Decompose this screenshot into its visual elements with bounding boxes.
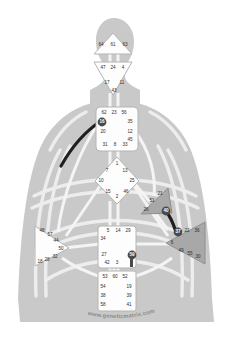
gate-20[interactable]: 20 xyxy=(100,129,106,134)
gate-35[interactable]: 35 xyxy=(127,119,133,124)
gate-6[interactable]: 6 xyxy=(171,240,174,245)
gate-27[interactable]: 27 xyxy=(101,252,107,257)
gate-11[interactable]: 11 xyxy=(120,80,125,85)
gate-21[interactable]: 21 xyxy=(157,191,163,196)
gate-60[interactable]: 60 xyxy=(112,274,118,279)
gate-53[interactable]: 53 xyxy=(102,274,108,279)
gate-58[interactable]: 58 xyxy=(100,302,106,307)
gate-51[interactable]: 51 xyxy=(149,198,155,203)
gate-44[interactable]: 44 xyxy=(53,238,59,243)
gate-64[interactable]: 64 xyxy=(98,42,104,47)
gate-48[interactable]: 48 xyxy=(39,228,45,233)
gate-29[interactable]: 29 xyxy=(125,228,131,233)
gate-12[interactable]: 12 xyxy=(127,129,133,134)
gate-63[interactable]: 63 xyxy=(122,42,128,47)
gate-47[interactable]: 47 xyxy=(100,65,106,70)
gate-17[interactable]: 17 xyxy=(104,80,110,85)
gate-1[interactable]: 1 xyxy=(116,161,119,166)
gate-46[interactable]: 46 xyxy=(123,189,129,194)
gate-26[interactable]: 26 xyxy=(143,207,149,212)
gate-38[interactable]: 38 xyxy=(100,293,106,298)
gate-41[interactable]: 41 xyxy=(126,302,132,307)
gate-62[interactable]: 62 xyxy=(101,110,107,115)
gate-25[interactable]: 25 xyxy=(129,178,135,183)
gate-7[interactable]: 7 xyxy=(106,168,109,173)
gate-3[interactable]: 3 xyxy=(116,260,119,265)
gate-49[interactable]: 49 xyxy=(178,248,184,253)
gate-13[interactable]: 13 xyxy=(122,168,128,173)
gate-10[interactable]: 10 xyxy=(98,178,104,183)
gate-19[interactable]: 19 xyxy=(126,284,132,289)
gate-39[interactable]: 39 xyxy=(126,293,132,298)
gate-42[interactable]: 42 xyxy=(104,260,110,265)
gate-50[interactable]: 50 xyxy=(58,246,64,251)
gate-31[interactable]: 31 xyxy=(102,142,108,147)
gate-54[interactable]: 54 xyxy=(100,284,106,289)
gate-15[interactable]: 15 xyxy=(105,189,111,194)
gate-32[interactable]: 32 xyxy=(52,254,58,259)
gate-4[interactable]: 4 xyxy=(122,65,125,70)
gate-37[interactable]: 37 xyxy=(175,229,181,234)
gate-61[interactable]: 61 xyxy=(110,42,116,47)
gate-34[interactable]: 34 xyxy=(100,236,106,241)
gate-56[interactable]: 56 xyxy=(121,110,127,115)
gate-18[interactable]: 18 xyxy=(37,259,43,264)
bodygraph-screenshot: 6461634724417114362235616352012453183317… xyxy=(0,0,236,341)
gate-43[interactable]: 43 xyxy=(111,88,117,93)
gate-40[interactable]: 40 xyxy=(163,208,169,213)
gate-8[interactable]: 8 xyxy=(114,142,117,147)
gate-23[interactable]: 23 xyxy=(111,110,117,115)
gate-36[interactable]: 36 xyxy=(194,228,200,233)
gate-2[interactable]: 2 xyxy=(116,194,119,199)
gate-14[interactable]: 14 xyxy=(115,228,121,233)
gate-45[interactable]: 45 xyxy=(127,137,133,142)
gate-57[interactable]: 57 xyxy=(47,232,53,237)
gate-22[interactable]: 22 xyxy=(184,228,190,233)
gate-33[interactable]: 33 xyxy=(122,142,128,147)
gate-52[interactable]: 52 xyxy=(122,274,128,279)
gate-28[interactable]: 28 xyxy=(44,257,50,262)
gate-24[interactable]: 24 xyxy=(110,65,116,70)
gate-55[interactable]: 55 xyxy=(187,251,193,256)
gate-30[interactable]: 30 xyxy=(195,254,201,259)
gate-5[interactable]: 5 xyxy=(107,228,110,233)
bodygraph-svg: 6461634724417114362235616352012453183317… xyxy=(0,0,236,341)
gate-59[interactable]: 59 xyxy=(129,252,135,257)
gate-16[interactable]: 16 xyxy=(99,119,105,124)
